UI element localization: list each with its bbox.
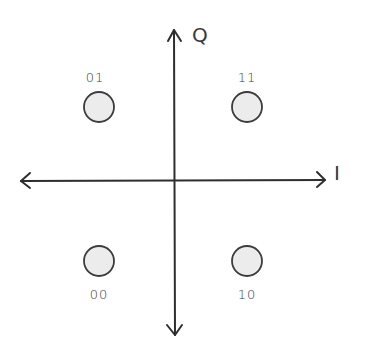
symbol-bits-label: 01 xyxy=(86,70,105,85)
symbol-circle xyxy=(232,246,262,276)
constellation-point-10: 10 xyxy=(232,246,262,302)
constellation-points: 01110010 xyxy=(84,70,262,302)
symbol-circle xyxy=(232,92,262,122)
i-axis: I xyxy=(21,161,340,188)
symbol-bits-label: 10 xyxy=(238,287,257,302)
symbol-circle xyxy=(84,246,114,276)
symbol-bits-label: 00 xyxy=(90,287,109,302)
symbol-bits-label: 11 xyxy=(238,70,257,85)
q-axis: Q xyxy=(167,23,208,335)
q-axis-label: Q xyxy=(192,23,208,47)
symbol-circle xyxy=(84,92,114,122)
constellation-point-11: 11 xyxy=(232,70,262,122)
i-axis-line xyxy=(21,180,325,181)
constellation-point-00: 00 xyxy=(84,246,114,302)
constellation-diagram: I Q 01110010 xyxy=(0,0,368,352)
q-axis-line xyxy=(174,30,175,335)
constellation-point-01: 01 xyxy=(84,70,114,122)
i-axis-label: I xyxy=(334,161,340,185)
